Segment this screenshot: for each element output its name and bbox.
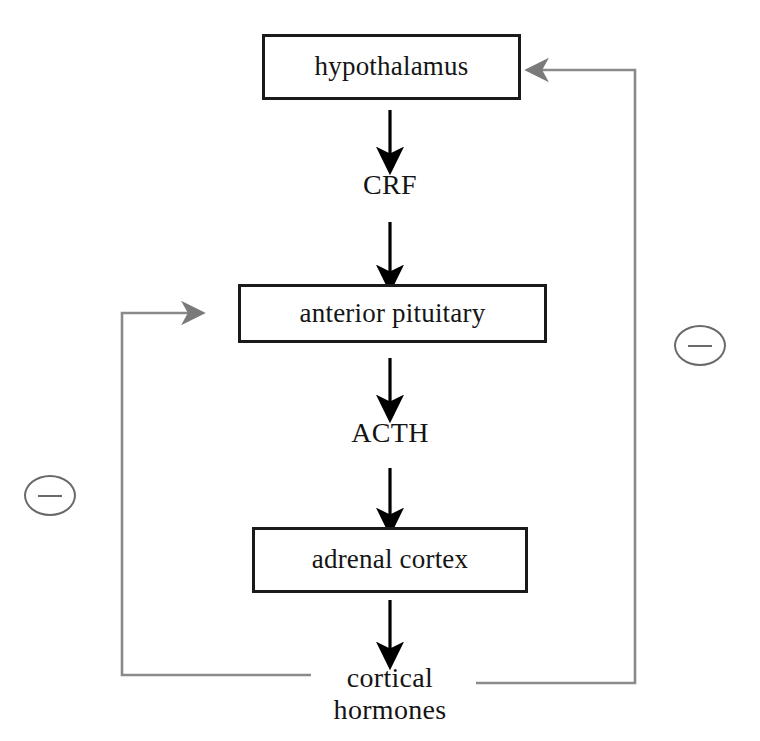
node-hypothalamus: hypothalamus [262,34,521,100]
feedback-path-cortical-hormones-to-anterior-pituitary [122,313,311,675]
diagram-connectors-layer [0,0,760,741]
hormone-label-crf: CRF [290,170,490,200]
node-hypothalamus-label: hypothalamus [315,52,469,82]
node-anterior-pituitary: anterior pituitary [238,284,547,343]
hormone-label-cortical-hormones-line1: cortical [347,662,433,693]
hormone-label-cortical-hormones-line2: hormones [290,694,490,726]
hpa-axis-diagram: hypothalamus anterior pituitary adrenal … [0,0,760,741]
node-anterior-pituitary-label: anterior pituitary [300,299,486,329]
minus-sign-icon-left [24,475,76,516]
node-adrenal-cortex-label: adrenal cortex [312,545,468,575]
hormone-label-cortical-hormones: cortical hormones [290,662,490,726]
hormone-label-acth: ACTH [290,418,490,448]
node-adrenal-cortex: adrenal cortex [252,527,528,593]
minus-sign-icon-right [674,325,726,366]
